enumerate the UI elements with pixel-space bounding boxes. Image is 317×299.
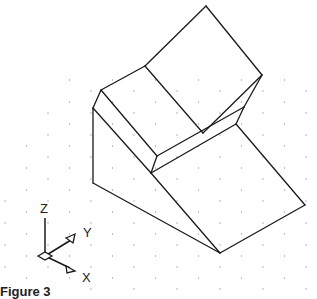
z-axis-label: Z <box>40 201 48 216</box>
figure-caption: Figure 3 <box>0 284 51 299</box>
x-axis-label: X <box>82 270 91 285</box>
edge-top-right <box>206 6 262 75</box>
y-axis-label: Y <box>83 225 92 240</box>
edge-top-left <box>145 6 206 66</box>
